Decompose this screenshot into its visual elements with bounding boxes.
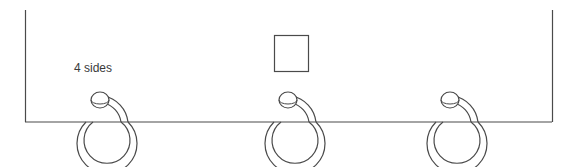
- binder-ring-icon-3: [427, 92, 487, 167]
- square-shape: [275, 36, 309, 72]
- binder-diagram: 4 sides: [0, 0, 574, 167]
- sides-label: 4 sides: [74, 61, 112, 75]
- binder-ring-icon-1: [77, 92, 137, 167]
- diagram-svg: [0, 0, 574, 167]
- binder-ring-icon-2: [265, 92, 325, 167]
